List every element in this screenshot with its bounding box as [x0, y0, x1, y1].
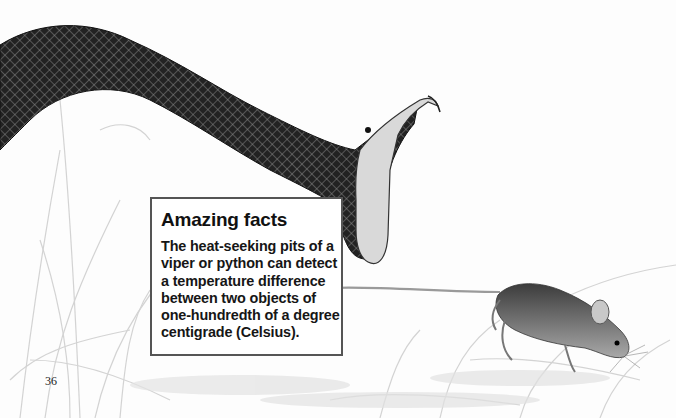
- fact-box-title: Amazing facts: [161, 209, 287, 231]
- book-page: Amazing facts The heat-seeking pits of a…: [0, 0, 676, 418]
- amazing-facts-box: Amazing facts The heat-seeking pits of a…: [150, 197, 343, 356]
- fact-line: centigrade (Celsius).: [161, 324, 347, 341]
- fact-line: between two objects of: [161, 290, 347, 307]
- fact-line: one-hundredth of a degree: [161, 307, 347, 324]
- mouse-body: [496, 284, 629, 358]
- page-number: 36: [45, 374, 57, 389]
- fact-line: The heat-seeking pits of a: [161, 238, 347, 255]
- mouse-eye: [615, 341, 620, 346]
- mouse-ear: [591, 300, 609, 324]
- fact-line: a temperature difference: [161, 273, 347, 290]
- snake-eye: [365, 127, 371, 133]
- mouse-tail: [330, 288, 500, 292]
- fact-box-body: The heat-seeking pits of a viper or pyth…: [161, 238, 347, 342]
- snake-mouth: [356, 98, 438, 263]
- fact-line: viper or python can detect: [161, 255, 347, 272]
- ground-shading: [130, 370, 610, 408]
